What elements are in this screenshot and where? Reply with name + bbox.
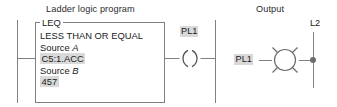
rung-wire-middle <box>165 58 177 59</box>
leq-description-line: LESS THAN OR EQUAL <box>40 30 164 42</box>
leq-block-lines: LESS THAN OR EQUAL Source A C5:1.ACC Sou… <box>40 30 164 88</box>
ladder-logic-figure: Ladder logic program Output LEQ LESS THA… <box>0 0 337 107</box>
rung-wire-output <box>203 58 216 59</box>
output-coil-icon <box>177 49 203 68</box>
source-a-operand: A <box>72 42 78 53</box>
leq-source-a-value-line: C5:1.ACC <box>40 53 164 65</box>
ladder-logic-program-heading: Ladder logic program <box>46 4 135 14</box>
source-b-label: Source <box>40 65 70 76</box>
leq-source-b-value-line: 457 <box>40 76 164 88</box>
right-power-rail <box>215 20 216 103</box>
source-b-value[interactable]: 457 <box>40 76 59 87</box>
leq-description-text: LESS THAN OR EQUAL <box>40 30 143 41</box>
coil-address-label: PL1 <box>180 26 198 37</box>
leq-mnemonic-label: LEQ <box>42 18 61 28</box>
leq-source-a-line: Source A <box>40 42 164 54</box>
leq-title-container: LEQ <box>40 17 63 28</box>
source-a-value[interactable]: C5:1.ACC <box>40 53 85 64</box>
left-power-rail <box>17 20 18 103</box>
source-b-operand: B <box>72 65 78 76</box>
pilot-light-icon <box>268 40 302 80</box>
output-heading: Output <box>256 4 284 14</box>
lamp-address-label: PL1 <box>234 54 253 65</box>
source-a-label: Source <box>40 42 70 53</box>
leq-source-b-line: Source B <box>40 65 164 77</box>
wire-junction-dot <box>310 57 316 63</box>
l2-supply-label: L2 <box>310 18 320 29</box>
rung-wire-input <box>17 58 35 59</box>
